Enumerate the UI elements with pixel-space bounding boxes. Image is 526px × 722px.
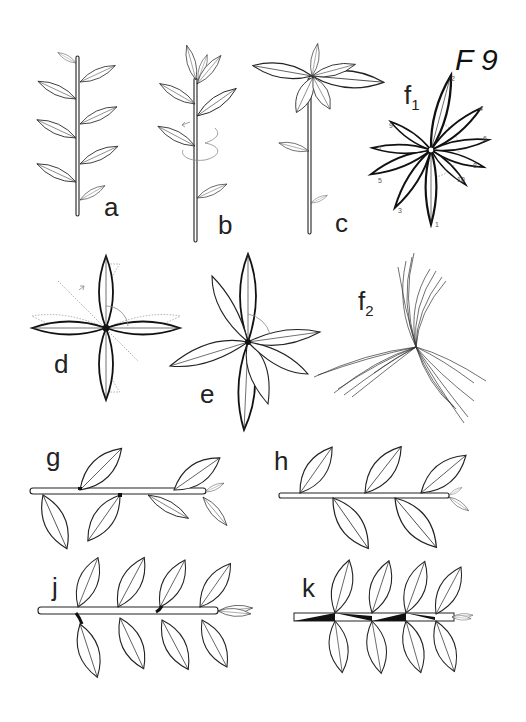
svg-text:f1: f1	[404, 80, 420, 113]
panel-a: a	[35, 50, 120, 222]
leaf-number-2: 2	[451, 75, 455, 82]
panel-label-f2-subscript: 2	[365, 302, 373, 319]
leaf-number-9: 9	[389, 122, 393, 129]
leaf-number-8: 8	[473, 162, 477, 169]
panel-g: g	[30, 441, 230, 553]
panel-j: j	[38, 553, 253, 680]
svg-text:f2: f2	[358, 286, 374, 319]
leaf-number-10: 10	[457, 176, 465, 183]
panel-label-c: c	[335, 208, 348, 238]
leaf-number-3: 3	[398, 207, 402, 214]
panel-label-e: e	[200, 379, 214, 409]
leaf-number-7: 7	[378, 145, 382, 152]
panel-k: k	[294, 557, 473, 675]
panel-c: c	[252, 43, 385, 238]
panel-label-k: k	[302, 573, 316, 603]
leaf-number-6: 6	[483, 135, 487, 142]
leaf-number-4: 4	[479, 105, 483, 112]
panel-e: e	[170, 254, 320, 430]
panel-label-j: j	[51, 572, 58, 602]
panel-label-a: a	[104, 192, 119, 222]
panel-label-h: h	[274, 446, 288, 476]
leaf-number-1: 1	[435, 221, 439, 228]
panel-f1: f1 1 2 3 4 5 6 7 8 9 10	[369, 74, 490, 228]
panel-b: b	[156, 44, 240, 242]
figure-title: F 9	[455, 43, 498, 76]
panel-f2: f2	[314, 253, 486, 423]
panel-label-d: d	[54, 349, 68, 379]
figure-canvas: F 9 a b c	[0, 0, 526, 722]
panel-d: d	[32, 256, 180, 400]
panel-label-f1-subscript: 1	[411, 96, 419, 113]
panel-label-b: b	[218, 210, 232, 240]
panel-h: h	[274, 440, 473, 555]
panel-label-g: g	[46, 442, 60, 472]
leaf-number-5: 5	[378, 177, 382, 184]
